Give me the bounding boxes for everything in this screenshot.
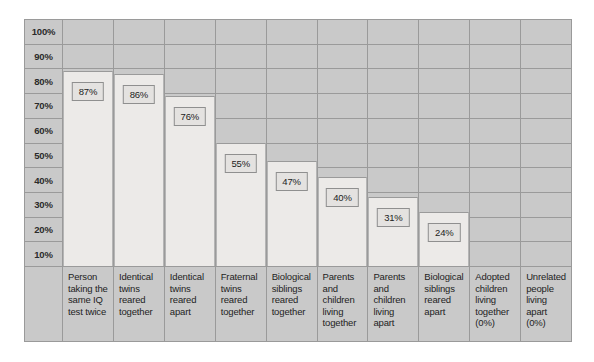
bar-value-label: 76%: [174, 107, 206, 126]
bar-column: 40%: [318, 20, 369, 266]
category-label: Parents and children living apart: [368, 267, 419, 341]
category-label: Adopted children living together (0%): [470, 267, 521, 341]
bar: 76%: [165, 96, 215, 266]
y-axis-tick: 80%: [25, 69, 62, 94]
bar-value-label: 40%: [326, 188, 358, 207]
bar: 24%: [419, 212, 469, 266]
bar-value-label: 47%: [275, 172, 307, 191]
y-axis-tick: 60%: [25, 119, 62, 144]
y-axis-tick: 20%: [25, 218, 62, 243]
y-axis-tick: 50%: [25, 144, 62, 169]
bar-column: 47%: [267, 20, 318, 266]
y-axis-tick: 10%: [25, 242, 62, 266]
y-axis-tick: 90%: [25, 45, 62, 70]
plot-area: 87%86%76%55%47%40%31%24%: [63, 20, 571, 266]
bar: 87%: [63, 71, 113, 266]
bar: 40%: [318, 177, 368, 266]
bar-column: 55%: [216, 20, 267, 266]
bar: 31%: [368, 197, 418, 266]
category-label: Identical twins reared together: [114, 267, 165, 341]
bar: 55%: [216, 143, 266, 266]
category-labels: Person taking the same IQ test twiceIden…: [63, 267, 571, 341]
y-axis: 100% 90% 80% 70% 60% 50% 40% 30% 20% 10%: [25, 20, 63, 266]
bar-value-label: 55%: [224, 154, 256, 173]
bar-chart: 100% 90% 80% 70% 60% 50% 40% 30% 20% 10%: [24, 19, 572, 342]
category-label: Parents and children living together: [318, 267, 369, 341]
y-axis-tick: 30%: [25, 193, 62, 218]
bar-column: [470, 20, 521, 266]
bar: 47%: [267, 161, 317, 266]
category-label: Biological siblings reared apart: [419, 267, 470, 341]
category-label: Identical twins reared apart: [165, 267, 216, 341]
axis-corner: [25, 267, 63, 341]
bar-value-label: 86%: [123, 85, 155, 104]
chart-plot-region: 100% 90% 80% 70% 60% 50% 40% 30% 20% 10%: [25, 20, 571, 266]
bar-column: 86%: [114, 20, 165, 266]
y-axis-tick: 40%: [25, 168, 62, 193]
bar-column: 76%: [165, 20, 216, 266]
bar-value-label: 87%: [72, 82, 104, 101]
bar-value-label: 24%: [428, 223, 460, 242]
bar-value-label: 31%: [377, 208, 409, 227]
bar-columns: 87%86%76%55%47%40%31%24%: [63, 20, 571, 266]
category-label: Unrelated people living apart (0%): [521, 267, 571, 341]
category-label-row: Person taking the same IQ test twiceIden…: [25, 266, 571, 341]
category-label: Biological siblings reared together: [267, 267, 318, 341]
bar-column: [521, 20, 571, 266]
bar: 86%: [114, 74, 164, 266]
bar-column: 87%: [63, 20, 114, 266]
bar-column: 24%: [419, 20, 470, 266]
category-label: Person taking the same IQ test twice: [63, 267, 114, 341]
y-axis-tick: 100%: [25, 20, 62, 45]
y-axis-tick: 70%: [25, 94, 62, 119]
category-label: Fraternal twins reared together: [216, 267, 267, 341]
bar-column: 31%: [368, 20, 419, 266]
